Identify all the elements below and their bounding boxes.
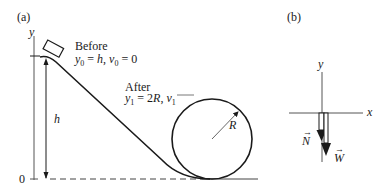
- before-title: Before: [75, 40, 108, 52]
- panel-b-label: (b): [287, 11, 301, 23]
- diagram-canvas: [0, 0, 391, 188]
- y-axis-b-label: y: [318, 58, 323, 70]
- normal-force-symbol: N: [302, 135, 310, 147]
- after-condition: y1 = 2R, v1: [125, 92, 176, 109]
- x-axis-b-label: x: [367, 106, 372, 118]
- panel-a-label: (a): [17, 11, 30, 23]
- radius-label: R: [229, 119, 236, 131]
- cart: [43, 40, 64, 57]
- y-axis-a-label: y: [29, 26, 34, 38]
- after-y-eq: = 2: [134, 91, 153, 105]
- ramp-track: [40, 57, 210, 179]
- before-y-eq: =: [84, 52, 97, 66]
- height-arrow-up-icon: [44, 58, 49, 65]
- height-label: h: [54, 113, 60, 125]
- before-condition: y0 = h, v0 = 0: [75, 53, 137, 70]
- after-v-sub: 1: [172, 98, 176, 107]
- weight-label: W: [334, 152, 344, 164]
- zero-label: 0: [19, 173, 25, 185]
- before-v-eq: = 0: [118, 52, 137, 66]
- height-arrow-down-icon: [44, 172, 49, 179]
- normal-force-label: N: [302, 135, 310, 147]
- weight-symbol: W: [334, 152, 344, 164]
